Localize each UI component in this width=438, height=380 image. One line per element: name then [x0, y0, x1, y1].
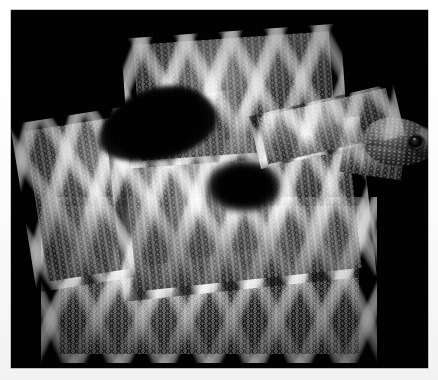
coil-shadow-void-center	[207, 160, 281, 212]
snake-eye-glint	[413, 138, 416, 140]
screenshot-root: Black-and-white photograph of a coiled r…	[0, 0, 438, 380]
photograph: Black-and-white photograph of a coiled r…	[11, 10, 428, 368]
